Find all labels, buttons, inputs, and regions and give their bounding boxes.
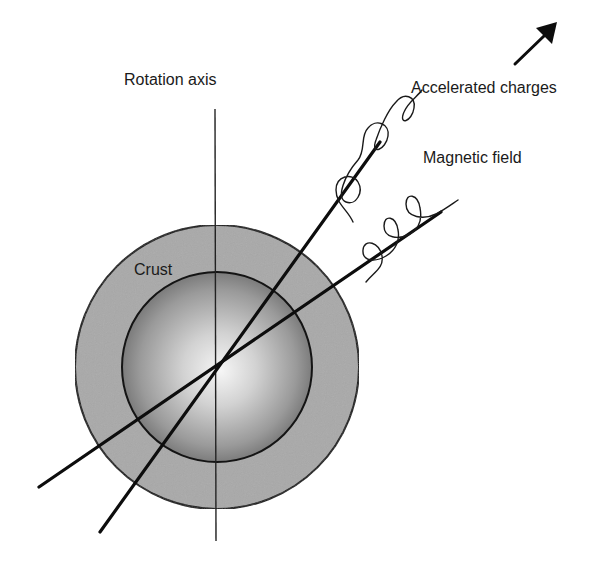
rotation-axis-label: Rotation axis bbox=[124, 72, 217, 88]
magnetic-field-label: Magnetic field bbox=[423, 150, 522, 166]
crust-label: Crust bbox=[134, 262, 172, 278]
arrow-shaft bbox=[515, 36, 544, 64]
charge-spiral-upper bbox=[336, 90, 422, 222]
charge-spiral-lower bbox=[363, 196, 458, 282]
accelerated-charges-label: Accelerated charges bbox=[411, 80, 557, 96]
